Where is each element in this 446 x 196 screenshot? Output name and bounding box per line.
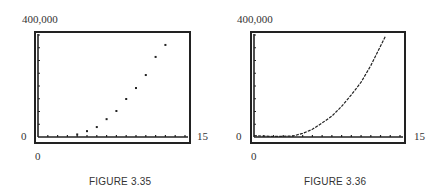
data-point (155, 56, 157, 58)
data-point (125, 98, 127, 100)
fig2-plot (251, 32, 405, 143)
data-point (106, 118, 108, 120)
fig2-curve (254, 36, 385, 136)
data-point (96, 126, 98, 128)
fig2-axes (254, 34, 403, 137)
fig2-frame (251, 32, 405, 143)
fig1-plot (35, 32, 190, 143)
fig1-data-points (76, 44, 166, 136)
data-point (86, 130, 88, 132)
data-point (76, 133, 78, 135)
data-point (145, 74, 147, 76)
data-point (135, 87, 137, 89)
data-point (115, 110, 117, 112)
data-point (164, 44, 166, 46)
fig1-axes (38, 34, 188, 137)
plots-canvas (0, 0, 446, 196)
fig1-frame (35, 32, 190, 143)
